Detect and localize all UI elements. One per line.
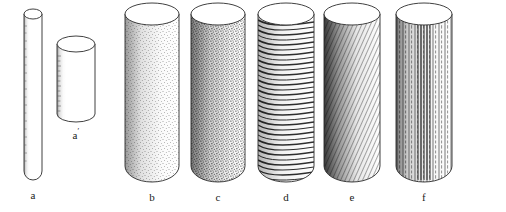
specimen-c xyxy=(191,3,245,182)
figure-label-a-prime-mark: ′ xyxy=(78,127,80,136)
specimen-f xyxy=(396,3,452,182)
figure-label-d: d xyxy=(283,192,289,203)
figure-label-f: f xyxy=(422,192,426,203)
specimen-b-top-ellipse xyxy=(125,3,179,25)
specimen-c-top-ellipse xyxy=(191,3,245,25)
specimen-b xyxy=(125,3,179,182)
figure-label-b-text: b xyxy=(149,191,155,203)
figure-label-e: e xyxy=(349,192,354,203)
figure-label-d-text: d xyxy=(283,191,289,203)
specimen-e-body-shading xyxy=(324,14,380,182)
figure-label-a-text: a xyxy=(30,189,35,201)
specimen-d-top-ellipse xyxy=(258,3,314,25)
specimen-f-top-ellipse xyxy=(396,3,452,25)
specimen-a-body-shading xyxy=(24,14,30,182)
figure-label-c: c xyxy=(215,192,220,203)
figure-canvas: a a′ b c d e f xyxy=(0,0,506,212)
specimen-a-prime-body-shading xyxy=(57,44,66,122)
figure-label-a-prime: a′ xyxy=(72,130,79,141)
figure-label-e-text: e xyxy=(349,191,354,203)
figure-label-f-text: f xyxy=(422,191,426,203)
specimen-a-top-ellipse xyxy=(24,9,42,19)
cylinder-figure-drawing xyxy=(0,0,506,212)
specimen-d-body-shading xyxy=(258,14,314,182)
figure-label-a: a xyxy=(30,190,35,201)
specimen-e xyxy=(324,3,380,182)
specimen-d xyxy=(258,3,314,182)
specimen-a-prime-top-ellipse xyxy=(57,36,95,52)
specimen-f-body-shading xyxy=(396,14,452,182)
figure-label-c-text: c xyxy=(215,191,220,203)
specimen-b-body-shading xyxy=(125,14,179,182)
specimen-c-body-shading xyxy=(191,14,245,182)
specimen-e-top-ellipse xyxy=(324,3,380,25)
figure-label-b: b xyxy=(149,192,155,203)
